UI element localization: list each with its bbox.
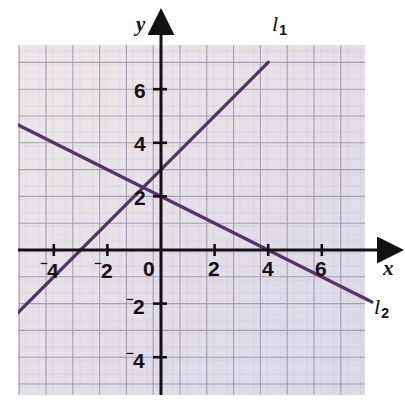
y-tick-label-2: 2 bbox=[134, 187, 146, 208]
y-tick-label-6: 6 bbox=[134, 80, 146, 101]
line-label-l2-subscript: 2 bbox=[381, 305, 389, 321]
x-tick-label-2: 2 bbox=[208, 258, 220, 279]
x-tick-label-4: 4 bbox=[262, 258, 274, 279]
y-axis-label: y bbox=[136, 14, 145, 35]
y-tick-value-neg4: 4 bbox=[133, 349, 145, 372]
x-axis-label: x bbox=[383, 258, 394, 279]
line-label-l2: l2 bbox=[374, 296, 389, 320]
x-tick-label-0: 0 bbox=[143, 258, 155, 279]
line-label-l1: l1 bbox=[272, 13, 287, 37]
x-tick-label-neg2: ⁻2 bbox=[94, 258, 113, 281]
x-tick-value-neg4: 4 bbox=[47, 259, 59, 282]
x-tick-label-6: 6 bbox=[315, 258, 327, 279]
y-tick-value-neg2: 2 bbox=[133, 295, 145, 318]
y-tick-label-neg4: ⁻4 bbox=[126, 348, 145, 371]
line-label-l1-subscript: 1 bbox=[279, 22, 287, 38]
line-l2-tail bbox=[362, 297, 372, 302]
data-lines bbox=[16, 62, 362, 314]
x-tick-label-neg4: ⁻4 bbox=[40, 258, 59, 281]
y-tick-label-neg2: ⁻2 bbox=[126, 294, 145, 317]
line-label-l2-base: l bbox=[374, 294, 380, 319]
line-label-l1-base: l bbox=[272, 11, 278, 36]
graph-figure: ⁻4 ⁻2 0 2 4 6 6 4 2 ⁻2 ⁻4 y x l1 l2 bbox=[0, 0, 405, 409]
y-tick-label-4: 4 bbox=[134, 133, 146, 154]
line-l2 bbox=[16, 124, 362, 297]
x-tick-value-neg2: 2 bbox=[101, 259, 113, 282]
